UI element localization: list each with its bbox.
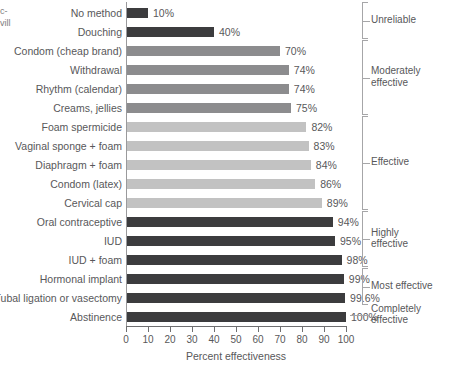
- bar: [126, 217, 333, 227]
- x-axis-tick: [302, 326, 303, 332]
- bar-row: IUD + foam98%: [0, 251, 452, 270]
- bracket-cap-top: [362, 116, 368, 117]
- bracket-stem: [363, 287, 370, 288]
- bar-row: Condom (cheap brand)70%: [0, 42, 452, 61]
- bar: [126, 27, 214, 37]
- bar-row: Foam spermicide82%: [0, 118, 452, 137]
- bracket-cap-bottom: [362, 209, 368, 210]
- x-axis-tick: [236, 326, 237, 332]
- x-axis-tick: [126, 326, 127, 332]
- x-axis-tick: [324, 326, 325, 332]
- bracket-stem: [363, 21, 370, 22]
- group-bracket-label: Most effective: [371, 280, 433, 292]
- category-label: Abstinence: [0, 310, 122, 324]
- bar-value-label: 82%: [311, 120, 332, 134]
- bar: [126, 274, 344, 284]
- category-label: Diaphragm + foam: [0, 158, 122, 172]
- category-label: Creams, jellies: [0, 101, 122, 115]
- bar-value-label: 83%: [314, 139, 335, 153]
- category-label: Tubal ligation or vasectomy: [0, 291, 122, 305]
- x-axis-tick: [214, 326, 215, 332]
- bracket-cap-bottom: [362, 114, 368, 115]
- bar: [126, 160, 311, 170]
- bar-value-label: 74%: [294, 82, 315, 96]
- bracket-cap-top: [362, 2, 368, 3]
- x-axis-tick: [192, 326, 193, 332]
- x-axis-tick: [170, 326, 171, 332]
- group-bracket-label: Effective: [371, 156, 409, 168]
- bracket-stem: [350, 315, 370, 316]
- bar: [126, 8, 148, 18]
- category-label: No method: [0, 6, 122, 20]
- bar-value-label: 86%: [320, 177, 341, 191]
- bar-value-label: 89%: [327, 196, 348, 210]
- x-axis-tick-label: 100: [331, 334, 361, 345]
- category-label: Cervical cap: [0, 196, 122, 210]
- bar-value-label: 84%: [316, 158, 337, 172]
- category-label: Withdrawal: [0, 63, 122, 77]
- bar-value-label: 98%: [347, 253, 368, 267]
- category-label: Foam spermicide: [0, 120, 122, 134]
- bar: [126, 312, 346, 322]
- bar-row: Douching40%: [0, 23, 452, 42]
- bar: [126, 236, 335, 246]
- bar-row: Cervical cap89%: [0, 194, 452, 213]
- x-axis-tick: [280, 326, 281, 332]
- category-label: Douching: [0, 25, 122, 39]
- bar-value-label: 75%: [296, 101, 317, 115]
- x-axis-title: Percent effectiveness: [126, 350, 346, 362]
- bracket-cap-top: [362, 211, 368, 212]
- bar-row: Condom (latex)86%: [0, 175, 452, 194]
- bar-row: Creams, jellies75%: [0, 99, 452, 118]
- bar: [126, 198, 322, 208]
- bar: [126, 103, 291, 113]
- bracket-stem: [363, 239, 370, 240]
- y-axis-line: [126, 2, 127, 327]
- category-label: Condom (cheap brand): [0, 44, 122, 58]
- category-label: Condom (latex): [0, 177, 122, 191]
- category-label: IUD + foam: [0, 253, 122, 267]
- bracket-cap-bottom: [362, 38, 368, 39]
- bar-value-label: 70%: [285, 44, 306, 58]
- bar: [126, 65, 289, 75]
- group-bracket-label: Highly effective: [371, 227, 408, 250]
- contraceptive-effectiveness-bar-chart: c- vill No method10%Douching40%Condom (c…: [0, 0, 452, 368]
- bar-value-label: 95%: [340, 234, 361, 248]
- bar: [126, 46, 280, 56]
- x-axis-tick: [148, 326, 149, 332]
- bar: [126, 293, 345, 303]
- bar: [126, 179, 315, 189]
- category-label: Rhythm (calendar): [0, 82, 122, 96]
- bracket-cap-top: [362, 268, 368, 269]
- bar-value-label: 40%: [219, 25, 240, 39]
- bar: [126, 255, 342, 265]
- category-label: Hormonal implant: [0, 272, 122, 286]
- bracket-cap-bottom: [362, 266, 368, 267]
- bracket-stem: [363, 163, 370, 164]
- group-bracket-label: Moderately effective: [371, 65, 420, 88]
- bar-value-label: 99%: [349, 272, 370, 286]
- group-bracket-label: Completely effective: [371, 303, 421, 326]
- bar-value-label: 10%: [153, 6, 174, 20]
- bar: [126, 141, 309, 151]
- bracket-cap-bottom: [362, 304, 368, 305]
- bar-row: Vaginal sponge + foam83%: [0, 137, 452, 156]
- category-label: IUD: [0, 234, 122, 248]
- category-label: Vaginal sponge + foam: [0, 139, 122, 153]
- bar-value-label: 74%: [294, 63, 315, 77]
- x-axis-tick: [258, 326, 259, 332]
- bracket-stem: [363, 78, 370, 79]
- group-bracket-label: Unreliable: [371, 14, 416, 26]
- bracket-cap-top: [362, 40, 368, 41]
- x-axis-tick: [346, 326, 347, 332]
- bar: [126, 122, 306, 132]
- category-label: Oral contraceptive: [0, 215, 122, 229]
- bar: [126, 84, 289, 94]
- bar-value-label: 94%: [338, 215, 359, 229]
